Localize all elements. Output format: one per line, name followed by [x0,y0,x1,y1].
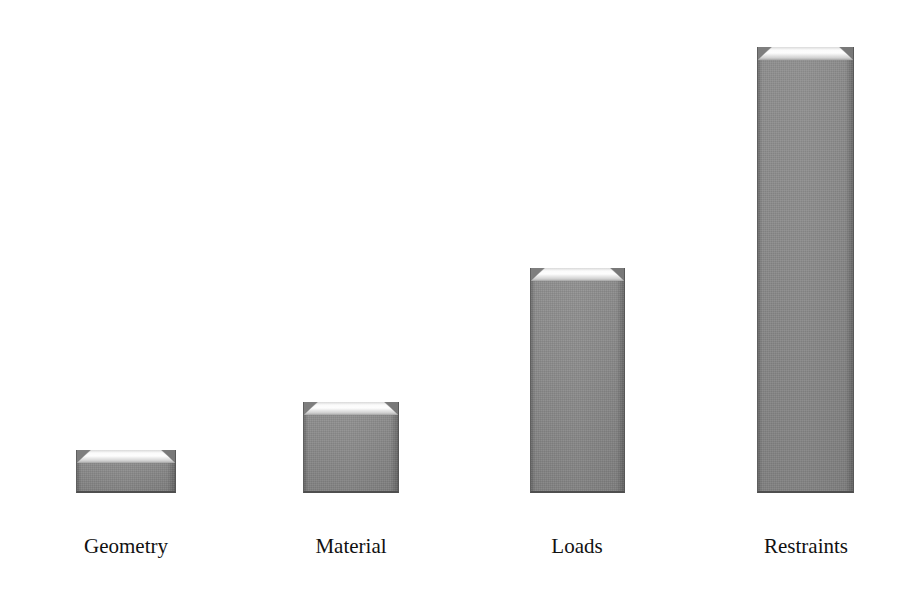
bar-texture [304,415,398,491]
bar-bevel-corner-left [531,268,545,281]
bar-texture [77,463,175,491]
bar-label-loads: Loads [507,534,647,558]
bar-texture [758,60,853,491]
bar-bevel-corner-right [839,47,853,60]
bar-label-geometry: Geometry [56,534,196,558]
bar-bevel-corner-right [161,450,175,463]
bar-bevel-corner-right [384,402,398,415]
bar-geometry [76,450,176,493]
bar-bevel-corner-left [304,402,318,415]
bar-chart: Geometry Material Loads Restraints [0,0,903,598]
bar-texture [531,281,624,491]
bar-bevel-corner-left [758,47,772,60]
bar-bevel-corner-left [77,450,91,463]
bar-label-restraints: Restraints [736,534,876,558]
bar-material [303,402,399,493]
bar-bevel-corner-right [610,268,624,281]
bar-restraints [757,47,854,493]
bar-loads [530,268,625,493]
bar-label-material: Material [281,534,421,558]
